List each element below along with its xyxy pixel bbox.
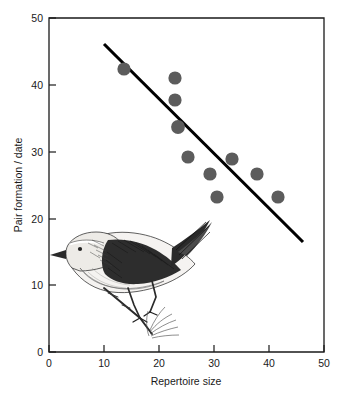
data-point (168, 93, 181, 106)
data-point (168, 71, 181, 84)
scatter-plot-figure: 0 10 20 30 40 50 0 10 20 30 40 50 Repert… (0, 0, 342, 399)
data-point (203, 167, 216, 180)
y-tick-label-0: 0 (37, 346, 43, 358)
y-tick-label-10: 10 (31, 279, 43, 291)
y-axis-title: Pair formation / date (12, 138, 24, 233)
y-axis-tick-labels: 0 10 20 30 40 50 (31, 12, 43, 358)
y-axis-ticks (49, 18, 56, 352)
data-point (225, 152, 238, 165)
x-axis-ticks (49, 345, 324, 352)
x-axis-title: Repertoire size (151, 375, 222, 387)
x-tick-label-20: 20 (153, 357, 165, 369)
data-point (181, 150, 194, 163)
data-point (117, 62, 130, 75)
y-tick-label-40: 40 (31, 79, 43, 91)
x-tick-label-30: 30 (208, 357, 220, 369)
data-point (271, 190, 284, 203)
y-tick-label-50: 50 (31, 12, 43, 24)
data-point (210, 190, 223, 203)
y-tick-label-20: 20 (31, 213, 43, 225)
plot-border (49, 18, 324, 352)
data-point (171, 120, 185, 134)
x-tick-label-10: 10 (98, 357, 110, 369)
y-tick-label-30: 30 (31, 146, 43, 158)
data-point (250, 167, 263, 180)
plot-frame (49, 18, 324, 352)
wren-bird-illustration (50, 220, 212, 338)
x-tick-label-50: 50 (318, 357, 330, 369)
x-axis-tick-labels: 0 10 20 30 40 50 (46, 357, 330, 369)
x-tick-label-0: 0 (46, 357, 52, 369)
x-tick-label-40: 40 (263, 357, 275, 369)
trend-line (104, 44, 303, 242)
